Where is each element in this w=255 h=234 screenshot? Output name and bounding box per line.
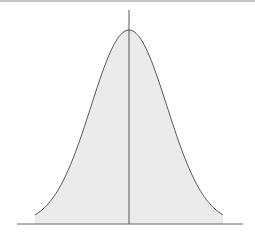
bell-curve-figure <box>0 0 255 234</box>
